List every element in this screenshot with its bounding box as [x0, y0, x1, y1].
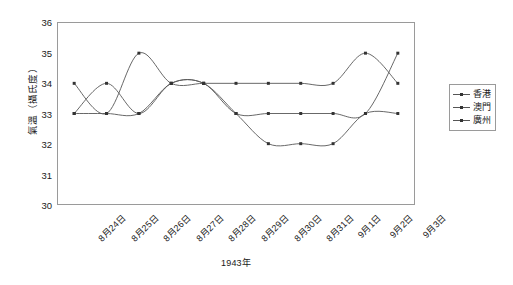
- data-point-marker: [396, 82, 399, 85]
- data-point-marker: [364, 52, 367, 55]
- y-axis-tick-label: 36: [26, 18, 52, 27]
- data-point-marker: [105, 82, 108, 85]
- data-point-marker: [235, 112, 238, 115]
- data-point-marker: [396, 112, 399, 115]
- x-axis-tick-label: 8月24日: [95, 211, 128, 244]
- x-axis-tick-label: 8月28日: [225, 211, 258, 244]
- data-point-marker: [137, 112, 140, 115]
- y-axis-tick-label: 31: [26, 170, 52, 179]
- x-axis-title: 1943年: [57, 256, 415, 269]
- legend-item-2[interactable]: 澳門: [453, 101, 491, 114]
- data-point-marker: [105, 112, 108, 115]
- legend-item-label: 澳門: [473, 102, 491, 113]
- data-point-marker: [396, 52, 399, 55]
- data-point-marker: [299, 82, 302, 85]
- y-axis-tick-label: 30: [26, 201, 52, 210]
- x-axis-tick-label: 9月1日: [354, 211, 384, 241]
- series-line: [74, 53, 398, 118]
- legend-item-3[interactable]: 廣州: [453, 114, 491, 127]
- chart-root: 氣溫（攝氏度） 36353433323130 8月24日8月25日8月26日8月…: [0, 0, 513, 285]
- data-point-marker: [299, 112, 302, 115]
- y-axis-tick-label: 33: [26, 109, 52, 118]
- chart-legend: 香港澳門廣州: [449, 84, 496, 131]
- y-axis-tick-label: 32: [26, 140, 52, 149]
- x-axis-tick-label: 9月3日: [419, 211, 449, 241]
- legend-line-marker-icon: [453, 90, 470, 99]
- legend-line-marker-icon: [453, 103, 470, 112]
- legend-item-label: 廣州: [473, 115, 491, 126]
- series-1: [73, 52, 400, 115]
- data-point-marker: [332, 82, 335, 85]
- y-axis-title-wrapper: 氣溫（攝氏度）: [0, 40, 22, 160]
- x-axis-tick-label: 9月2日: [387, 211, 417, 241]
- data-point-marker: [364, 112, 367, 115]
- y-axis-tick-labels: 36353433323130: [22, 22, 52, 205]
- data-point-marker: [73, 112, 76, 115]
- data-point-marker: [137, 52, 140, 55]
- data-point-marker: [235, 82, 238, 85]
- plot-area: [57, 22, 415, 205]
- data-point-marker: [267, 82, 270, 85]
- data-point-marker: [267, 142, 270, 145]
- data-point-marker: [202, 82, 205, 85]
- y-axis-tick-label: 34: [26, 79, 52, 88]
- data-point-marker: [267, 112, 270, 115]
- y-axis-tick-label: 35: [26, 48, 52, 57]
- chart-canvas: [58, 23, 414, 204]
- legend-item-label: 香港: [473, 89, 491, 100]
- x-axis-tick-label: 8月30日: [290, 211, 323, 244]
- data-point-marker: [73, 82, 76, 85]
- x-axis-tick-label: 8月25日: [128, 211, 161, 244]
- x-axis-tick-label: 8月29日: [258, 211, 291, 244]
- legend-item-1[interactable]: 香港: [453, 88, 491, 101]
- legend-line-marker-icon: [453, 116, 470, 125]
- data-point-marker: [170, 82, 173, 85]
- data-point-marker: [299, 142, 302, 145]
- data-point-marker: [332, 142, 335, 145]
- x-axis-tick-label: 8月26日: [160, 211, 193, 244]
- x-axis-tick-labels: 8月24日8月25日8月26日8月27日8月28日8月29日8月30日8月31日…: [57, 207, 415, 255]
- data-point-marker: [332, 112, 335, 115]
- x-axis-tick-label: 8月31日: [323, 211, 356, 244]
- x-axis-tick-label: 8月27日: [193, 211, 226, 244]
